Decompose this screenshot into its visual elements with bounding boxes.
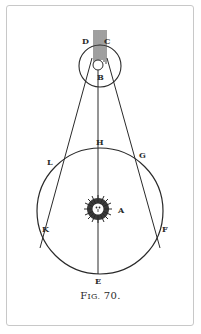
- label-g: G: [139, 150, 146, 160]
- line-d-k: [40, 58, 92, 248]
- caption-smallcaps: IG.: [88, 292, 101, 301]
- caption-number: 70.: [100, 290, 120, 301]
- line-c-f: [107, 58, 160, 248]
- label-h: H: [96, 137, 104, 147]
- label-c: C: [104, 36, 110, 46]
- label-k: K: [42, 224, 50, 234]
- caption-prefix: F: [80, 290, 87, 301]
- label-d: D: [82, 36, 89, 46]
- label-f: F: [162, 224, 168, 234]
- label-b: B: [97, 72, 104, 82]
- label-a: A: [117, 205, 125, 215]
- roemer-diagram: D C B H G L A K F E: [0, 0, 201, 334]
- jupiter-b: [93, 60, 103, 70]
- sun-a: [84, 195, 112, 223]
- figure-caption: FIG. 70.: [0, 290, 201, 301]
- label-e: E: [95, 276, 101, 286]
- label-l: L: [47, 157, 53, 167]
